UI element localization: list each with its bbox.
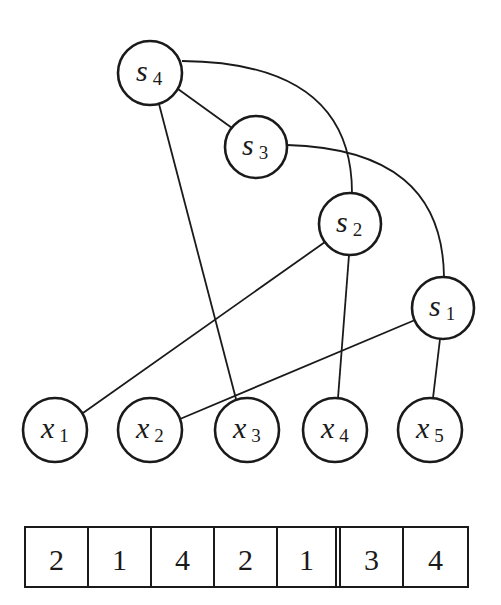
node-circle — [118, 41, 182, 105]
node-circle — [303, 398, 367, 462]
node-s2: s2 — [319, 193, 381, 255]
nodes: s4s3s2s1x1x2x3x4x5 — [23, 41, 474, 462]
edge-s1-x5 — [433, 339, 440, 398]
node-x3: x3 — [215, 398, 279, 462]
array-cell: 1 — [89, 528, 152, 586]
edge-s2-x1 — [83, 242, 325, 413]
node-circle — [412, 277, 474, 339]
array-cell: 3 — [341, 528, 404, 586]
array-cell: 1 — [278, 528, 341, 586]
array-cell: 2 — [215, 528, 278, 586]
node-circle — [215, 398, 279, 462]
node-x5: x5 — [398, 398, 462, 462]
node-circle — [23, 398, 87, 462]
node-circle — [398, 398, 462, 462]
node-circle — [225, 116, 287, 178]
edge-s4-s3 — [178, 89, 232, 128]
node-s4: s4 — [118, 41, 182, 105]
node-circle — [319, 193, 381, 255]
edge-s2-x4 — [338, 255, 349, 398]
node-x2: x2 — [118, 398, 182, 462]
node-circle — [118, 398, 182, 462]
node-x4: x4 — [303, 398, 367, 462]
node-s3: s3 — [225, 116, 287, 178]
sequence-array: 2 1 4 2 1 3 4 — [24, 526, 469, 588]
array-cell: 4 — [404, 528, 467, 586]
tree-diagram: s4s3s2s1x1x2x3x4x5 — [0, 0, 501, 520]
node-x1: x1 — [23, 398, 87, 462]
edge-s1-x2 — [180, 320, 415, 419]
array-cell: 4 — [152, 528, 215, 586]
array-cell: 2 — [26, 528, 89, 586]
node-s1: s1 — [412, 277, 474, 339]
edges — [83, 61, 444, 419]
